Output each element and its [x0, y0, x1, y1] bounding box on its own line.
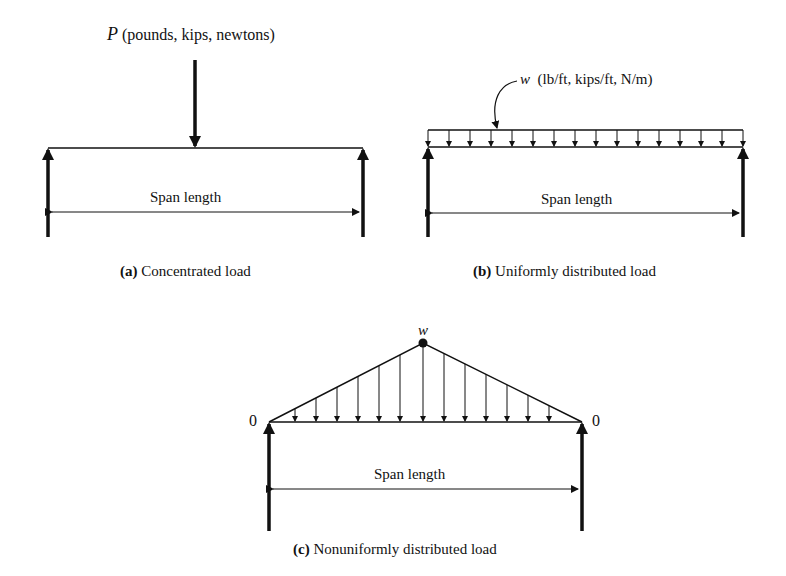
span-length-label-c: Span length — [374, 466, 445, 483]
right-end-value: 0 — [592, 412, 600, 430]
uniform-load-arrows — [428, 130, 743, 146]
caption-b-letter: (b) — [473, 263, 491, 279]
caption-c: (c) Nonuniformly distributed load — [293, 541, 497, 558]
caption-b-text: Uniformly distributed load — [495, 263, 656, 279]
caption-c-text: Nonuniformly distributed load — [313, 541, 496, 557]
left-end-value: 0 — [249, 412, 257, 430]
span-length-label-b: Span length — [541, 191, 612, 208]
panel-a-concentrated-load — [48, 60, 363, 237]
w-leader-arrow-icon — [495, 81, 517, 128]
span-length-label-a: Span length — [150, 189, 221, 206]
panel-c-nonuniform-load — [269, 339, 582, 532]
caption-a: (a) Concentrated load — [120, 263, 251, 280]
peak-point-icon — [419, 339, 428, 348]
load-symbol-w: w — [520, 71, 530, 87]
load-symbol-P: P — [107, 24, 118, 44]
peak-load-symbol-w: w — [418, 322, 428, 339]
panel-b-load-label: w (lb/ft, kips/ft, N/m) — [520, 71, 653, 88]
load-units: (pounds, kips, newtons) — [122, 26, 275, 43]
load-diagrams-canvas — [0, 0, 786, 576]
panel-b-uniform-load — [428, 81, 743, 237]
caption-a-text: Concentrated load — [141, 263, 251, 279]
caption-b: (b) Uniformly distributed load — [473, 263, 656, 280]
panel-a-load-label: P (pounds, kips, newtons) — [107, 24, 275, 45]
triangular-load-arrows — [295, 347, 549, 421]
load-units: (lb/ft, kips/ft, N/m) — [538, 71, 653, 87]
caption-c-letter: (c) — [293, 541, 310, 557]
caption-a-letter: (a) — [120, 263, 138, 279]
